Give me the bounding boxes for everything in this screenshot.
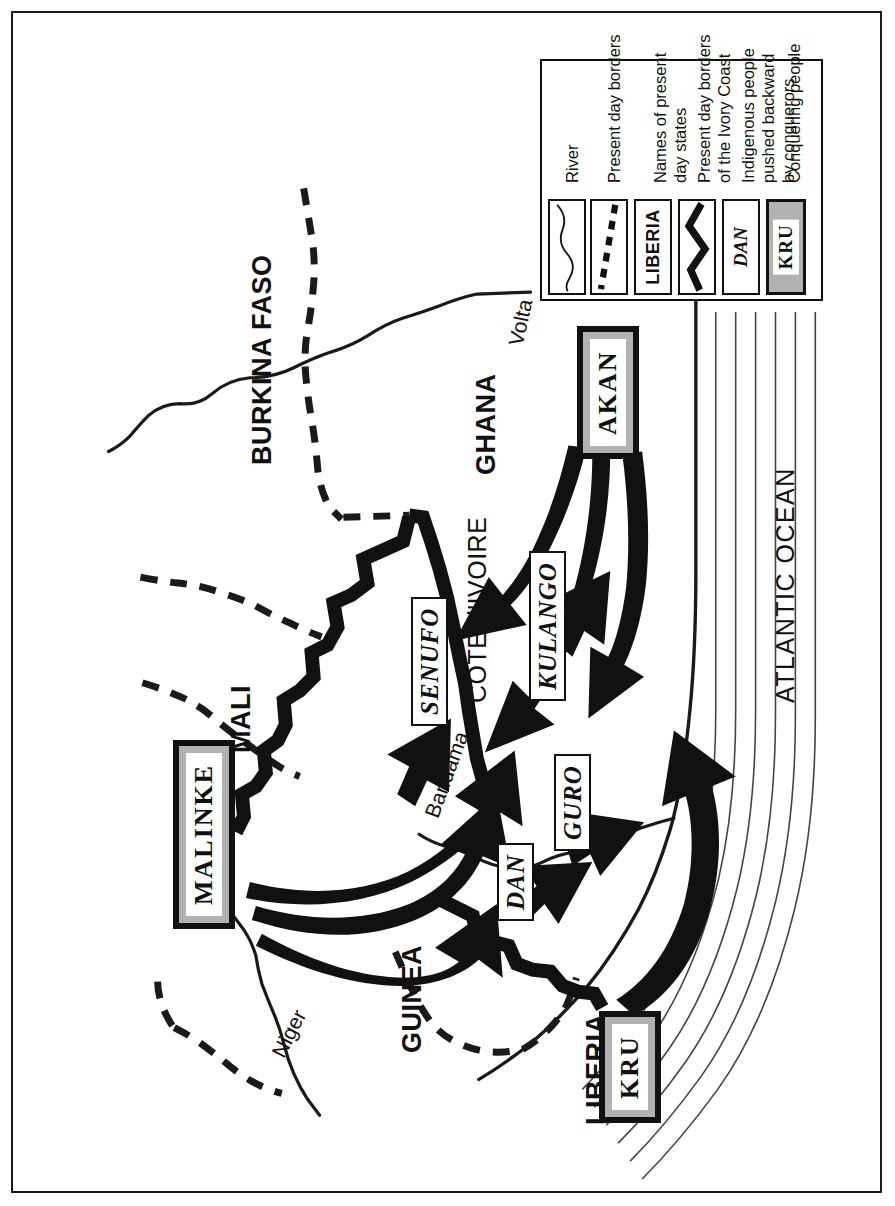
ethnic-label-kulango: KULANGO bbox=[529, 551, 566, 701]
river-volta bbox=[109, 292, 531, 451]
legend-label-indigenous-l1: Indigenous people bbox=[738, 48, 758, 183]
conquering-label-akan: AKAN bbox=[577, 326, 639, 459]
legend-label-present-borders-l1: Present day borders bbox=[604, 34, 624, 183]
legend-label-ivory-coast-border-l1: Present day borders bbox=[694, 34, 714, 183]
ethnic-label-guro: GURO bbox=[554, 754, 591, 851]
legend-label-state-names-l1: Names of present bbox=[650, 53, 670, 183]
map-frame: BURKINA FASO MALI GHANA GUINEA LIBERIA C… bbox=[11, 11, 882, 1193]
legend-swatch-indigenous-text: DAN bbox=[730, 227, 752, 267]
legend-item-ivory-coast-border: Present day borders of the Ivory Coast bbox=[672, 61, 716, 299]
legend-swatch-indigenous: DAN bbox=[722, 199, 760, 295]
country-label-ghana: GHANA bbox=[473, 374, 500, 476]
legend-item-present-borders: Present day borders bbox=[584, 61, 628, 299]
conquering-label-kru: KRU bbox=[599, 1011, 661, 1123]
country-label-cote-divoire: COTE d'IVOIRE bbox=[465, 517, 490, 703]
ocean-label-atlantic: ATLANTIC OCEAN bbox=[773, 467, 798, 703]
conquering-label-kru-text: KRU bbox=[612, 1024, 648, 1110]
conquering-label-akan-text: AKAN bbox=[590, 339, 626, 446]
legend-label-present-borders: Present day borders bbox=[604, 34, 624, 183]
legend-swatch-conquering-text: KRU bbox=[773, 219, 799, 274]
arrow-kru-north bbox=[616, 731, 735, 1016]
legend-swatch-thick-line bbox=[678, 199, 716, 295]
conquering-label-malinke: MALINKE bbox=[173, 740, 235, 929]
legend-label-river-l1: River bbox=[562, 144, 582, 183]
map-page: BURKINA FASO MALI GHANA GUINEA LIBERIA C… bbox=[0, 0, 895, 1206]
country-label-guinea: GUINEA bbox=[399, 945, 426, 1053]
legend-swatch-river-line bbox=[548, 199, 586, 295]
legend-swatch-dashed-line bbox=[590, 199, 628, 295]
legend-panel: River Present day borders bbox=[540, 59, 823, 301]
legend-label-river: River bbox=[562, 144, 582, 183]
legend-item-river: River bbox=[542, 61, 584, 299]
ethnic-label-dan: DAN bbox=[497, 843, 534, 921]
legend-swatch-conquering: KRU bbox=[766, 199, 806, 295]
legend-label-conquering: Conquering people bbox=[784, 44, 804, 183]
legend-swatch-state-name: LIBERIA bbox=[634, 199, 672, 295]
legend-item-state-names: LIBERIA Names of present day states bbox=[628, 61, 672, 299]
legend-item-conquering: KRU Conquering people bbox=[760, 61, 808, 299]
legend-label-conquering-l1: Conquering people bbox=[784, 44, 804, 183]
ethnic-label-senufo: SENUFO bbox=[411, 597, 448, 726]
conquering-label-malinke-text: MALINKE bbox=[186, 753, 222, 916]
legend-item-indigenous: DAN Indigenous people pushed backward by… bbox=[716, 61, 760, 299]
country-label-burkina-faso: BURKINA FASO bbox=[249, 254, 276, 465]
legend-swatch-state-name-text: LIBERIA bbox=[643, 209, 664, 285]
